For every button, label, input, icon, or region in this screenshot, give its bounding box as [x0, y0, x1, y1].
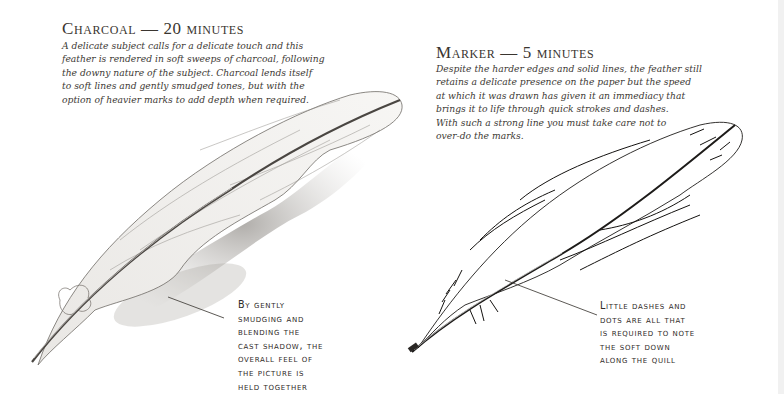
charcoal-caption: By gently smudging and blending the cast…: [238, 298, 323, 393]
marker-leader-line: [505, 280, 597, 315]
marker-caption: Little dashes and dots are all that is r…: [600, 299, 695, 367]
charcoal-feather-icon: [32, 92, 402, 365]
page-edge: [778, 0, 784, 394]
